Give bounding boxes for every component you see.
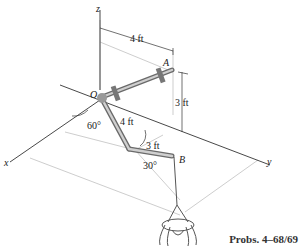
figure-caption: Probs. 4–68/69 [229, 233, 298, 245]
base-angle-label: 60° [87, 120, 101, 131]
construction-lines [30, 20, 258, 215]
z-axis-label: z [95, 3, 100, 14]
x-axis-label: x [3, 157, 9, 168]
x-axis [10, 100, 100, 162]
origin-label: O [90, 89, 97, 100]
end-angle-label: 30° [143, 160, 157, 171]
point-B-label: B [179, 154, 185, 165]
point-A-label: A [162, 57, 170, 68]
pipe-assembly-diagram: z y x O A B 4 ft 3 ft 4 ft 3 ft 60° 30° [0, 0, 304, 249]
height-label: 3 ft [175, 97, 189, 108]
top-length-label: 4 ft [130, 33, 144, 44]
hanging-basket [160, 157, 197, 246]
end-length-label: 3 ft [146, 140, 160, 151]
middle-length-label: 4 ft [120, 116, 134, 127]
y-axis-label: y [266, 156, 272, 167]
statics-figure: z y x O A B 4 ft 3 ft 4 ft 3 ft 60° 30° … [0, 0, 304, 249]
